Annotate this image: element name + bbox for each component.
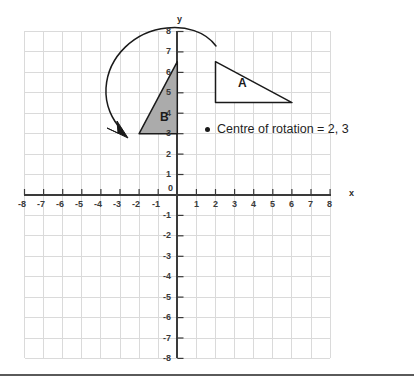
y-tick-label--2: -2 xyxy=(163,230,171,240)
x-tick-label--3: -3 xyxy=(113,199,121,209)
bottom-divider xyxy=(0,374,414,376)
y-tick-label--8: -8 xyxy=(163,353,171,363)
x-tick-label--2: -2 xyxy=(132,199,140,209)
y-tick-label--4: -4 xyxy=(163,271,171,281)
y-tick-label--7: -7 xyxy=(163,333,171,343)
x-tick-label--4: -4 xyxy=(94,199,102,209)
x-tick-label--5: -5 xyxy=(75,199,83,209)
legend: Centre of rotation = 2, 3 xyxy=(205,122,349,136)
coordinate-grid-figure: -8 -7 -6 -5 -4 -3 -2 -1 0 1 2 3 4 5 6 7 … xyxy=(0,0,414,384)
origin-label: 0 xyxy=(168,183,173,193)
x-tick-label-4: 4 xyxy=(251,199,256,209)
y-tick-label-2: 2 xyxy=(166,149,171,159)
y-tick-label-7: 7 xyxy=(166,46,171,56)
y-tick-label-6: 6 xyxy=(166,67,171,77)
x-tick-label--8: -8 xyxy=(18,199,26,209)
y-tick-label-3: 3 xyxy=(166,128,171,138)
y-tick-label-1: 1 xyxy=(166,169,171,179)
triangle-a-label: A xyxy=(238,76,247,90)
y-tick-label-5: 5 xyxy=(166,87,171,97)
x-tick-label--6: -6 xyxy=(56,199,64,209)
triangle-b-label: B xyxy=(160,110,169,124)
y-axis-label: y xyxy=(177,14,182,24)
y-tick-label--3: -3 xyxy=(163,251,171,261)
legend-label: Centre of rotation = 2, 3 xyxy=(217,122,349,136)
rotation-arrow-head xyxy=(107,121,128,138)
y-tick-label--1: -1 xyxy=(163,210,171,220)
x-tick-label-6: 6 xyxy=(289,199,294,209)
y-tick-label-8: 8 xyxy=(166,26,171,36)
x-tick-label-3: 3 xyxy=(232,199,237,209)
x-tick-label-7: 7 xyxy=(308,199,313,209)
y-tick-label--6: -6 xyxy=(163,312,171,322)
centre-of-rotation-dot-icon xyxy=(205,127,210,132)
x-tick-label-8: 8 xyxy=(327,199,332,209)
x-tick-label-2: 2 xyxy=(213,199,218,209)
x-axis-label: x xyxy=(349,188,354,198)
y-tick-label--5: -5 xyxy=(163,292,171,302)
x-tick-label-1: 1 xyxy=(194,199,199,209)
x-tick-label--1: -1 xyxy=(152,199,160,209)
x-tick-label--7: -7 xyxy=(37,199,45,209)
x-tick-label-5: 5 xyxy=(270,199,275,209)
